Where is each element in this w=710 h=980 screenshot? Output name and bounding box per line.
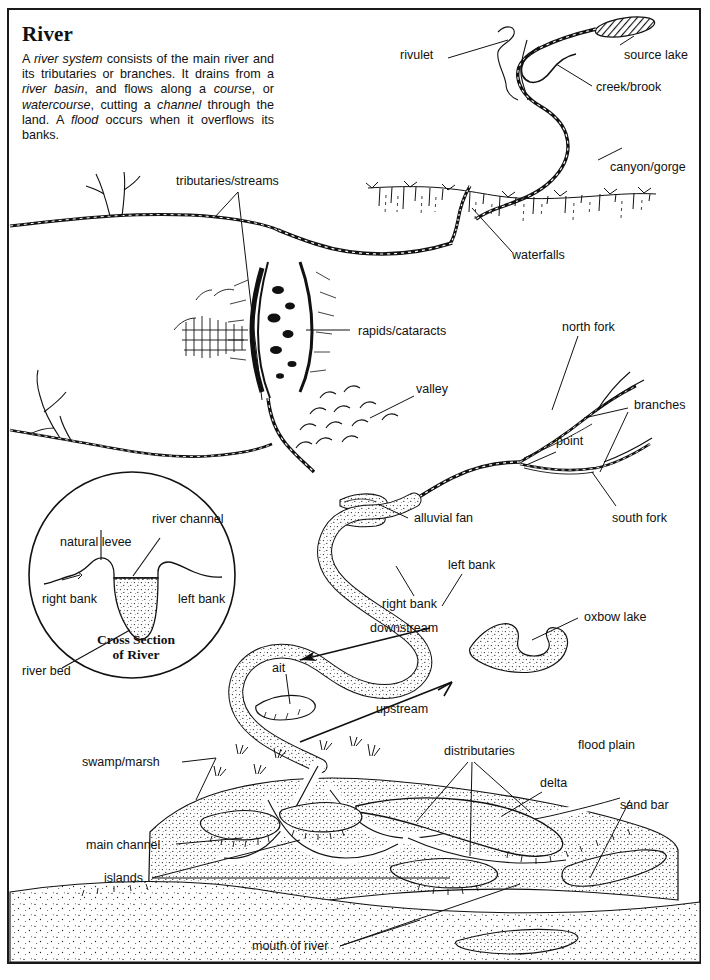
label-source-lake: source lake — [624, 48, 688, 62]
label-canyon-gorge: canyon/gorge — [610, 160, 686, 174]
article-body: A river system consists of the main rive… — [22, 52, 274, 143]
label-left-bank: left bank — [448, 558, 495, 572]
label-oxbow-lake: oxbow lake — [584, 610, 647, 624]
oxbow-lake-shape — [469, 624, 567, 673]
label-north-fork: north fork — [562, 320, 615, 334]
upper-river-course — [476, 29, 596, 219]
inset-title-line2: of River — [113, 647, 160, 662]
label-creek-brook: creek/brook — [596, 80, 661, 94]
label-south-fork: south fork — [612, 511, 667, 525]
river-diagram-page: River A river system consists of the mai… — [0, 0, 710, 980]
escarpment-band — [366, 181, 656, 222]
label-upstream: upstream — [376, 702, 428, 716]
rapids-cataracts-shape — [174, 262, 336, 472]
label-flood-plain: flood plain — [578, 738, 635, 752]
label-waterfalls: waterfalls — [512, 248, 565, 262]
inset-label-river-channel: river channel — [152, 512, 224, 526]
label-valley: valley — [416, 382, 448, 396]
label-islands: islands — [104, 871, 143, 885]
inset-label-river-bed: river bed — [22, 664, 71, 678]
label-downstream: downstream — [370, 621, 438, 635]
label-rivulet: rivulet — [400, 48, 433, 62]
inset-label-natural-levee: natural levee — [60, 535, 132, 549]
inset-title-line1: Cross Section — [97, 632, 175, 647]
label-tributaries-streams: tributaries/streams — [176, 174, 279, 188]
source-lake-shape — [594, 13, 656, 40]
valley-shape — [296, 386, 398, 448]
label-distributaries: distributaries — [444, 744, 515, 758]
ait-shape — [256, 695, 315, 720]
label-right-bank: right bank — [382, 597, 437, 611]
label-swamp-marsh: swamp/marsh — [82, 755, 160, 769]
label-ait: ait — [272, 661, 285, 675]
page-title: River — [22, 22, 274, 47]
inset-label-left-bank: left bank — [178, 592, 225, 606]
inset-label-right-bank: right bank — [42, 592, 97, 606]
label-mouth-of-river: mouth of river — [252, 939, 328, 953]
lower-left-tributary — [10, 370, 272, 457]
title-block: River A river system consists of the mai… — [22, 22, 274, 143]
inset-title: Cross Section of River — [72, 632, 200, 662]
upper-main-course — [278, 230, 452, 254]
label-main-channel: main channel — [86, 838, 160, 852]
label-branches: branches — [634, 398, 685, 412]
river-illustration — [0, 0, 710, 980]
waterfall-shape — [450, 186, 470, 244]
label-delta: delta — [540, 776, 567, 790]
label-sand-bar: sand bar — [620, 798, 669, 812]
label-rapids-cataracts: rapids/cataracts — [358, 324, 446, 338]
label-point: point — [556, 434, 583, 448]
label-alluvial-fan: alluvial fan — [414, 511, 473, 525]
